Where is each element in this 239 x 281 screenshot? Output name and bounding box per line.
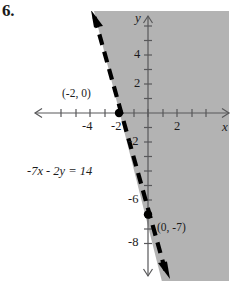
y-tick-label-neg8: -8 <box>128 236 138 249</box>
shaded-region <box>94 11 229 281</box>
y-tick-label-neg2: -2 <box>128 135 138 148</box>
x-tick-label-neg2: -2 <box>111 120 121 133</box>
x-intercept-annotation: (-2, 0) <box>62 88 91 100</box>
x-tick-label-2: 2 <box>174 120 180 133</box>
y-tick-label-4: 4 <box>134 48 140 61</box>
y-tick-label-neg6: -6 <box>128 193 138 206</box>
x-tick-label-neg4: -4 <box>82 120 92 133</box>
y-axis-label: y <box>135 11 141 24</box>
point-y-intercept <box>144 210 152 218</box>
problem-number: 6. <box>2 2 14 19</box>
coordinate-plane <box>0 0 239 281</box>
x-axis-label: x <box>222 120 228 133</box>
point-x-intercept <box>115 109 123 117</box>
y-intercept-annotation: (0, -7) <box>157 222 186 234</box>
graph-figure: 6. y x -4 -2 2 4 2 -2 -6 -8 (-2, 0) (0, … <box>0 0 239 281</box>
y-tick-label-2: 2 <box>134 77 140 90</box>
equation-annotation: -7x - 2y = 14 <box>27 165 92 178</box>
